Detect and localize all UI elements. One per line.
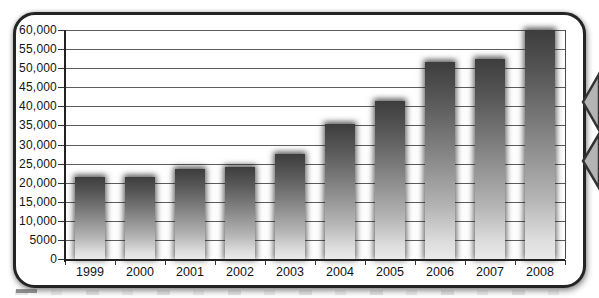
x-axis-label: 2007: [468, 266, 512, 279]
bar-2008: [525, 30, 555, 259]
gridline: [65, 30, 565, 31]
plot-right-boundary: [565, 30, 566, 259]
y-axis-label: 45,000: [14, 81, 57, 93]
x-axis-label: 2005: [368, 266, 412, 279]
bar-2004: [325, 124, 355, 259]
bar-2007: [475, 59, 505, 259]
x-axis-tick: [215, 260, 216, 265]
gridline: [65, 49, 565, 50]
y-axis-label: 30,000: [14, 139, 57, 151]
y-axis-label: 5000: [14, 234, 57, 246]
y-axis-label: 60,000: [14, 24, 57, 36]
x-axis-tick: [265, 260, 266, 265]
bar-2001: [175, 169, 205, 259]
bar-1999: [75, 177, 105, 259]
y-axis-label: 20,000: [14, 177, 57, 189]
bar-chart: 60,00055,00050,00045,00040,00035,00030,0…: [0, 0, 599, 298]
x-axis-tick: [465, 260, 466, 265]
bar-2003: [275, 154, 305, 259]
x-axis-tick: [315, 260, 316, 265]
x-axis-label: 2002: [218, 266, 262, 279]
bar-2000: [125, 177, 155, 259]
bar-2006: [425, 62, 455, 259]
y-axis-label: 55,000: [14, 43, 57, 55]
y-axis-label: 40,000: [14, 100, 57, 112]
x-axis-label: 1999: [68, 266, 112, 279]
y-axis-label: 10,000: [14, 215, 57, 227]
bar-2002: [225, 167, 255, 259]
cropped-caption-fragment-start: [16, 289, 37, 293]
bar-2005: [375, 101, 405, 259]
x-axis-label: 2001: [168, 266, 212, 279]
double-chevron-left-icon: [575, 65, 599, 200]
x-axis-label: 2008: [518, 266, 562, 279]
x-axis-label: 2006: [418, 266, 462, 279]
y-axis-line: [64, 30, 66, 262]
y-axis-label: 50,000: [14, 62, 57, 74]
cropped-caption-fragment: [15, 290, 563, 295]
x-axis-tick: [415, 260, 416, 265]
x-axis-tick: [365, 260, 366, 265]
x-axis-tick: [115, 260, 116, 265]
y-axis-label: 25,000: [14, 158, 57, 170]
x-axis-tick: [565, 260, 566, 265]
x-axis-label: 2003: [268, 266, 312, 279]
x-axis-label: 2000: [118, 266, 162, 279]
x-axis-tick: [165, 260, 166, 265]
y-axis-label: 35,000: [14, 119, 57, 131]
y-axis-label: 15,000: [14, 196, 57, 208]
x-axis-label: 2004: [318, 266, 362, 279]
y-axis-label: 0: [14, 253, 57, 265]
x-axis-tick: [515, 260, 516, 265]
